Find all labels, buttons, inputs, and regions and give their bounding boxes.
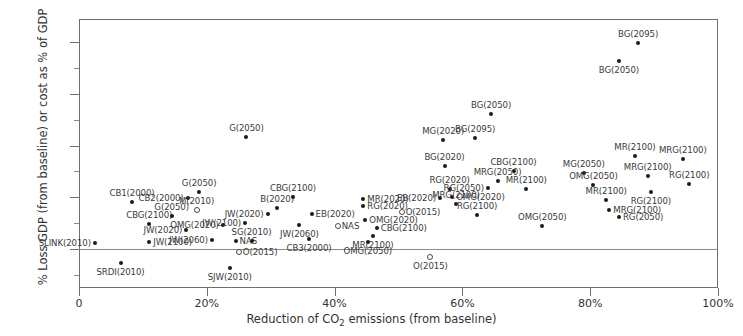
data-point [234, 239, 238, 243]
data-point [399, 209, 405, 215]
data-point-label: B(2020) [260, 194, 294, 204]
data-point-label: SLINK(2010) [39, 238, 91, 248]
data-point [443, 164, 447, 168]
data-point [633, 154, 637, 158]
data-point [681, 157, 685, 161]
data-point-label: BG(2050) [471, 100, 511, 110]
data-point [371, 234, 375, 238]
x-axis-tick-label: 100% [702, 297, 733, 310]
data-point-label: OMG(2050) [518, 212, 567, 222]
data-point [524, 187, 528, 191]
data-point-label: CB3(2000) [287, 243, 332, 253]
data-point [363, 218, 367, 222]
data-point [147, 240, 151, 244]
data-point [119, 261, 123, 265]
data-point-label: MG(2050) [563, 159, 605, 169]
data-point [335, 223, 341, 229]
data-point [228, 266, 232, 270]
data-point-label: MRG(2100) [659, 145, 707, 155]
y-axis-tick-minor [74, 68, 79, 69]
data-point-label: BG(2095) [455, 124, 495, 134]
data-point [266, 212, 270, 216]
x-axis-title-pre: Reduction of CO [246, 312, 339, 326]
data-point-label: RG(2100) [669, 170, 709, 180]
x-axis-tick-major [718, 288, 719, 296]
data-point [93, 241, 97, 245]
x-axis-tick-major [590, 288, 591, 296]
data-point [617, 215, 621, 219]
data-point-label: RG(2050) [444, 183, 484, 193]
data-point [244, 135, 248, 139]
data-point [496, 179, 500, 183]
y-axis-tick-major [70, 249, 79, 250]
data-point-label: CB2(2000) [139, 193, 184, 203]
data-point-label: O(2015) [406, 207, 441, 217]
x-axis-tick-major [462, 288, 463, 296]
x-axis-tick-label: 0 [76, 297, 83, 310]
y-axis-tick-major [70, 197, 79, 198]
x-axis-title-post: emissions (from baseline) [345, 312, 497, 326]
data-point-label: G(2050) [229, 123, 264, 133]
x-axis-tick-label: 80% [578, 297, 602, 310]
data-point [687, 182, 691, 186]
x-axis-tick-label: 20% [195, 297, 219, 310]
data-point [607, 208, 611, 212]
y-axis-tick-major [70, 94, 79, 95]
data-point [307, 237, 311, 241]
data-point-label: CBG(2100) [270, 183, 316, 193]
data-point-label: MRG(2100) [624, 162, 672, 172]
data-point [473, 136, 477, 140]
data-point [310, 212, 314, 216]
data-point [617, 59, 621, 63]
data-point [170, 214, 174, 218]
data-point-label: BG(2020) [424, 152, 464, 162]
data-point-label: MR(2100) [614, 142, 655, 152]
data-point-label: O(2015) [413, 261, 448, 271]
data-point-label: MR(2100) [506, 175, 547, 185]
x-axis-tick-label: 60% [450, 297, 474, 310]
data-point [250, 239, 254, 243]
data-point [236, 249, 242, 255]
data-point-label: RG(2050) [623, 212, 663, 222]
y-axis-title: % Loss GDP (from baseline) or cost as % … [36, 0, 50, 297]
data-point [366, 240, 370, 244]
data-point-label: JW(2020) [225, 209, 264, 219]
data-point [475, 213, 479, 217]
y-axis-tick-major [70, 146, 79, 147]
data-point [512, 169, 516, 173]
data-point [441, 138, 445, 142]
data-point-label: BG(2050) [599, 65, 639, 75]
data-point [646, 174, 650, 178]
data-point-label: SG(2010) [232, 227, 272, 237]
x-axis-tick-major [79, 288, 80, 296]
y-axis-tick-minor [74, 275, 79, 276]
data-point-label: MR(2100) [586, 186, 627, 196]
data-point [604, 198, 608, 202]
data-point [361, 197, 365, 201]
x-axis-tick-major [335, 288, 336, 296]
data-point [427, 254, 433, 260]
data-point-label: RG(2100) [631, 196, 671, 206]
data-point-label: JW(2100) [202, 218, 241, 228]
data-point-label: EB(2020) [397, 193, 436, 203]
data-point-label: CBG(2100) [490, 157, 536, 167]
data-point [636, 41, 640, 45]
data-point [197, 190, 201, 194]
data-point-label: JW(2060) [169, 235, 208, 245]
x-axis-tick-major [207, 288, 208, 296]
data-point-label: SJW(2010) [208, 272, 252, 282]
data-point [375, 226, 379, 230]
zero-reference-line [79, 249, 718, 250]
data-point [210, 238, 214, 242]
data-point [361, 204, 365, 208]
data-point [486, 186, 490, 190]
data-point-label: EB(2020) [316, 209, 355, 219]
y-axis-tick-minor [74, 120, 79, 121]
data-point [297, 223, 301, 227]
data-point-label: BG(2095) [618, 29, 658, 39]
data-point [194, 207, 200, 213]
data-point [130, 200, 134, 204]
data-point [243, 221, 247, 225]
data-point-label: CBG(2100) [381, 223, 427, 233]
data-point [489, 112, 493, 116]
